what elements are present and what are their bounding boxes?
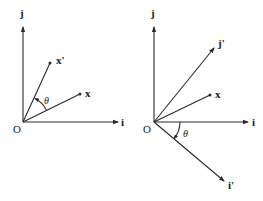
i-prime-label: i' [228,179,234,191]
x-prime-label: x' [56,54,65,66]
origin-label-left: O [13,123,21,135]
j-label-right: j [150,7,155,19]
i-label-left: i [121,116,124,128]
theta-arc-right [174,122,180,139]
x-point-left [79,93,82,96]
x-label-right: x [215,88,221,100]
vector-x-right [154,95,210,122]
right-panel: j i O j' x i' θ [143,7,255,191]
x-point-right [209,94,212,97]
j-label-left: j [19,7,24,19]
vector-x-prime [23,63,50,122]
j-prime-label: j' [217,37,225,49]
left-panel: j i O x' x θ [13,7,124,135]
rotation-diagram: j i O x' x θ j i O j' x i' θ [0,0,263,201]
theta-label-left: θ [44,95,49,106]
j-prime-axis [154,48,214,122]
theta-label-right: θ [183,128,188,139]
origin-label-right: O [143,123,151,135]
i-label-right: i [252,116,255,128]
x-label-left: x [85,87,91,99]
vector-x-left [23,94,80,122]
i-prime-axis [154,122,224,181]
x-prime-point [49,62,52,65]
